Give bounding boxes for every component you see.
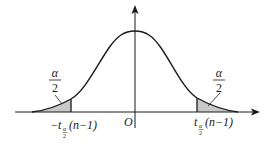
svg-text:2: 2 — [199, 130, 202, 136]
left-area-denominator: 2 — [52, 81, 58, 95]
right-area-numerator: α — [216, 66, 223, 80]
left-leader-line — [55, 95, 62, 104]
svg-text:(n−1): (n−1) — [205, 115, 233, 129]
left-area-numerator: α — [52, 66, 59, 80]
left-critical-value-label: − t α 2 (n−1) — [51, 118, 97, 139]
svg-text:−: − — [51, 118, 58, 132]
left-tail-shade — [32, 99, 71, 112]
t-distribution-diagram: α 2 α 2 O − t α 2 (n−1) t α 2 (n−1) — [0, 0, 265, 150]
svg-text:α: α — [63, 126, 67, 132]
right-tail-shade — [197, 98, 238, 112]
svg-text:2: 2 — [63, 133, 66, 139]
svg-text:t: t — [194, 115, 198, 129]
origin-label: O — [124, 115, 133, 129]
svg-text:(n−1): (n−1) — [69, 118, 97, 132]
right-area-denominator: 2 — [216, 81, 222, 95]
svg-text:α: α — [199, 123, 203, 129]
right-critical-value-label: t α 2 (n−1) — [194, 115, 233, 136]
svg-text:t: t — [58, 118, 62, 132]
